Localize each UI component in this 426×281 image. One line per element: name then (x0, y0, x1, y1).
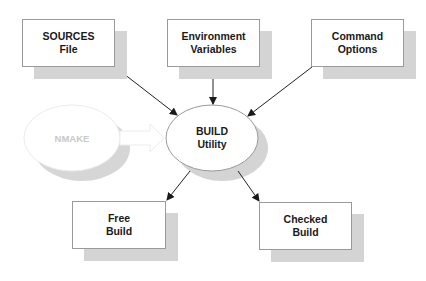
nmake-label: NMAKE (24, 105, 120, 171)
command-options-box: Command Options (311, 19, 404, 67)
env-line1: Environment (181, 30, 245, 43)
env-line2: Variables (190, 43, 236, 56)
environment-variables-box: Environment Variables (167, 19, 260, 67)
checked-build-box: Checked Build (259, 202, 352, 250)
sources-file-box: SOURCES File (22, 19, 115, 67)
free-line1: Free (108, 212, 130, 225)
nmake-text: NMAKE (55, 132, 90, 145)
free-build-box: Free Build (72, 201, 166, 249)
checked-line2: Build (292, 226, 318, 239)
arrow-build-to-checked (238, 171, 259, 201)
checked-line1: Checked (284, 213, 328, 226)
build-text: BUILD (196, 125, 228, 138)
sources-line2: File (59, 43, 77, 56)
sources-line1: SOURCES (43, 30, 95, 43)
free-line2: Build (106, 225, 132, 238)
arrow-build-to-free (167, 171, 190, 200)
build-utility-label: BUILD Utility (166, 105, 258, 171)
cmd-line1: Command (332, 30, 383, 43)
cmd-line2: Options (338, 43, 378, 56)
utility-text: Utility (197, 138, 226, 151)
